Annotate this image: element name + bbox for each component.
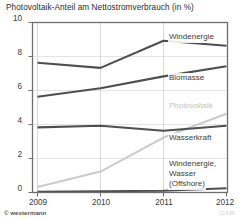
series-label-biomasse: Biomasse: [168, 73, 205, 84]
series-label-photovoltaik: Photovoltaik: [168, 101, 214, 112]
copyright-notice: © westermann: [4, 209, 46, 216]
x-tick-label-2009: 2009: [18, 198, 58, 207]
y-tick-label-4: 4: [2, 116, 22, 125]
chart-figure: Photovoltaik-Anteil am Nettostromverbrau…: [0, 0, 239, 219]
series-label-offshore-2: Wasser: [168, 169, 197, 180]
series-line-windenergie: [38, 41, 227, 68]
plate-code: 21690: [219, 210, 235, 216]
series-label-offshore-1: Windenergie,: [168, 159, 217, 170]
series-label-wasserkraft: Wasserkraft: [168, 133, 212, 144]
x-tick-label-2012: 2012: [205, 198, 239, 207]
x-tick-label-2011: 2011: [144, 198, 184, 207]
series-label-windenergie: Windenergie: [168, 32, 215, 43]
y-tick-label-6: 6: [2, 82, 22, 91]
series-line-wasserkraft: [38, 126, 227, 131]
series-label-offshore-3: (Offshore): [168, 179, 206, 190]
y-tick-label-8: 8: [2, 48, 22, 57]
x-tick-label-2010: 2010: [81, 198, 121, 207]
y-tick-label-10: 10: [2, 14, 22, 23]
y-tick-label-0: 0: [2, 184, 22, 193]
y-tick-label-2: 2: [2, 150, 22, 159]
